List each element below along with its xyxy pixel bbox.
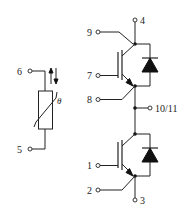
diode-icon: [142, 58, 158, 72]
pin-10-11-label: 10/11: [155, 103, 177, 114]
pin-6-label: 6: [17, 66, 22, 77]
pin-10-11-terminal[interactable]: [148, 106, 152, 110]
pin-4-terminal[interactable]: [133, 18, 137, 22]
bidirectional-arrow-icon: [49, 68, 58, 84]
pin-2-terminal[interactable]: [96, 188, 100, 192]
theta-label: θ: [57, 96, 62, 106]
pin-7-terminal[interactable]: [96, 74, 100, 78]
wire: [100, 32, 133, 44]
lower-igbt: 1 2 3: [87, 132, 158, 206]
pin-8-terminal[interactable]: [96, 98, 100, 102]
thermistor-slash: [34, 92, 57, 127]
wire: [32, 71, 45, 91]
pin-9-terminal[interactable]: [96, 30, 100, 34]
pin-6-terminal[interactable]: [28, 69, 32, 73]
midpoint-node: 10/11: [133, 86, 177, 134]
pin-5-terminal[interactable]: [28, 147, 32, 151]
pin-1-label: 1: [87, 160, 92, 171]
circuit-schematic: 6 θ 5 4 9 7: [0, 0, 189, 221]
pin-9-label: 9: [87, 27, 92, 38]
pin-2-label: 2: [87, 185, 92, 196]
pin-4-label: 4: [140, 15, 145, 26]
thermistor: 6 θ 5: [17, 66, 62, 155]
wire: [32, 129, 45, 149]
upper-igbt: 4 9 7 8: [87, 15, 158, 105]
diode-icon: [142, 148, 158, 162]
pin-3-label: 3: [140, 195, 145, 206]
pin-7-label: 7: [87, 70, 92, 81]
pin-1-terminal[interactable]: [96, 164, 100, 168]
pin-5-label: 5: [17, 144, 22, 155]
pin-8-label: 8: [87, 94, 92, 105]
pin-3-terminal[interactable]: [133, 198, 137, 202]
